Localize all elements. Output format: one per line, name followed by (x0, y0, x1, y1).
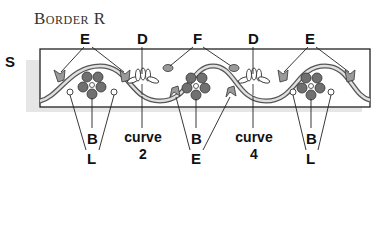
label-b-left: B (87, 131, 98, 146)
label-e-bottom: E (191, 151, 201, 166)
label-curve-4-word: curve (235, 130, 273, 145)
label-l-left: L (87, 151, 96, 166)
loop-l-4 (328, 89, 334, 95)
label-curve-4-number: 4 (235, 147, 273, 162)
loop-l-3 (290, 89, 296, 95)
label-b-center: B (191, 131, 202, 146)
bud-f-left (163, 65, 173, 72)
label-b-right: B (306, 131, 317, 146)
label-l-right: L (306, 151, 315, 166)
loop-l-1 (67, 89, 73, 95)
loop-l-2 (111, 89, 117, 95)
label-curve-2-word: curve (124, 130, 162, 145)
label-curve-2-number: 2 (124, 147, 162, 162)
